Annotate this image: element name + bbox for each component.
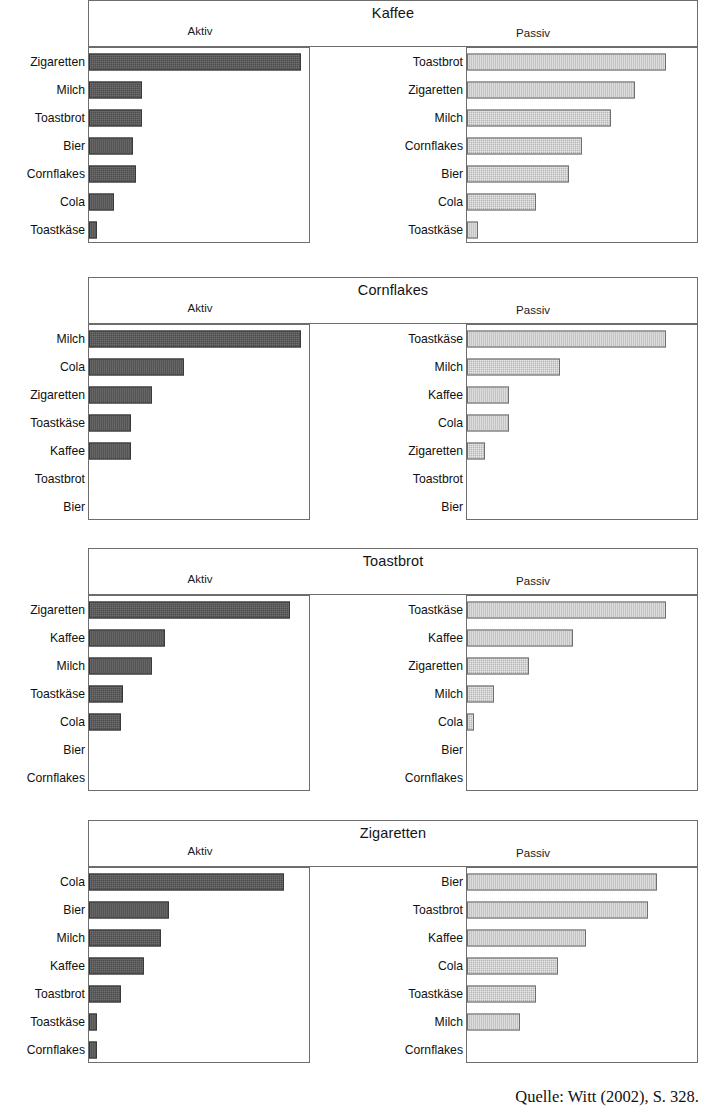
bar-rows xyxy=(89,48,309,242)
category-label: Cola xyxy=(438,715,463,729)
bar xyxy=(89,82,142,99)
bar xyxy=(89,331,301,348)
bar-row xyxy=(467,493,697,521)
bar-row xyxy=(467,680,697,708)
category-label: Zigaretten xyxy=(408,83,463,97)
bar-rows xyxy=(467,868,697,1062)
bar xyxy=(467,658,529,675)
bar-row xyxy=(89,924,309,952)
bar xyxy=(89,222,97,239)
bar-row xyxy=(467,868,697,896)
bar xyxy=(89,54,301,71)
bar-row xyxy=(89,409,309,437)
bar xyxy=(467,82,635,99)
bar-row xyxy=(467,924,697,952)
bar-row xyxy=(467,325,697,353)
category-label: Kaffee xyxy=(428,631,463,645)
bar xyxy=(467,387,509,404)
category-label: Toastkäse xyxy=(30,223,85,237)
bar xyxy=(89,602,290,619)
column-heading-aktiv: Aktiv xyxy=(89,302,311,315)
category-label: Kaffee xyxy=(50,631,85,645)
bar-row xyxy=(467,736,697,764)
category-label: Cola xyxy=(438,959,463,973)
category-label: Milch xyxy=(435,687,463,701)
bar-row xyxy=(467,188,697,216)
bar-rows xyxy=(467,325,697,519)
bar-row xyxy=(467,132,697,160)
column-heading-passiv: Passiv xyxy=(422,304,644,317)
bar-row xyxy=(89,216,309,244)
bar xyxy=(467,54,666,71)
category-label: Milch xyxy=(57,931,85,945)
bar-row xyxy=(89,160,309,188)
bar xyxy=(89,138,133,155)
category-label: Kaffee xyxy=(428,388,463,402)
bar xyxy=(89,930,161,947)
bar xyxy=(89,986,121,1003)
plot-area-aktiv: ColaBierMilchKaffeeToastbrotToastkäseCor… xyxy=(88,867,310,1063)
plot-area-passiv: ToastbrotZigarettenMilchCornflakesBierCo… xyxy=(466,47,698,243)
bar xyxy=(467,359,560,376)
category-label: Cola xyxy=(60,195,85,209)
bar xyxy=(467,443,485,460)
bar-row xyxy=(467,980,697,1008)
plot-area-passiv: ToastkäseMilchKaffeeColaZigarettenToastb… xyxy=(466,324,698,520)
bar-row xyxy=(467,1008,697,1036)
category-label: Cola xyxy=(60,875,85,889)
bar-row xyxy=(89,736,309,764)
bar-row xyxy=(89,353,309,381)
chart-panel: ToastbrotAktivPassivZigarettenKaffeeMilc… xyxy=(0,548,703,797)
category-label: Toastbrot xyxy=(413,472,463,486)
chart-title: Zigaretten xyxy=(89,825,697,841)
category-label: Zigaretten xyxy=(408,444,463,458)
bar-rows xyxy=(467,596,697,790)
bar-row xyxy=(89,1008,309,1036)
bar xyxy=(89,359,184,376)
category-label: Kaffee xyxy=(50,959,85,973)
bar-row xyxy=(89,896,309,924)
bar-row xyxy=(89,48,309,76)
category-label: Toastbrot xyxy=(35,472,85,486)
category-label: Cola xyxy=(60,360,85,374)
category-label: Toastbrot xyxy=(413,55,463,69)
bar-row xyxy=(89,76,309,104)
chart-header-box: ZigarettenAktivPassiv xyxy=(88,820,698,867)
bar xyxy=(467,194,536,211)
plot-area-passiv: BierToastbrotKaffeeColaToastkäseMilchCor… xyxy=(466,867,698,1063)
bar-rows xyxy=(467,48,697,242)
bar-row xyxy=(467,76,697,104)
bar xyxy=(467,110,611,127)
bar-row xyxy=(89,596,309,624)
bar-row xyxy=(467,160,697,188)
chart-panel: CornflakesAktivPassivMilchColaZigaretten… xyxy=(0,277,703,526)
bar xyxy=(89,1014,97,1031)
bar xyxy=(467,138,582,155)
bar-row xyxy=(467,596,697,624)
bar xyxy=(89,415,131,432)
bar-row xyxy=(89,381,309,409)
bar xyxy=(467,1014,520,1031)
category-label: Bier xyxy=(441,500,463,514)
bar-row xyxy=(467,896,697,924)
plot-area-passiv: ToastkäseKaffeeZigarettenMilchColaBierCo… xyxy=(466,595,698,791)
bar-row xyxy=(89,680,309,708)
bar xyxy=(467,714,474,731)
bar xyxy=(89,658,152,675)
bar-row xyxy=(467,48,697,76)
bar xyxy=(89,714,121,731)
bar xyxy=(467,958,558,975)
category-label: Cornflakes xyxy=(27,1043,85,1057)
bar-row xyxy=(89,132,309,160)
category-label: Zigaretten xyxy=(30,55,85,69)
bar-row xyxy=(467,652,697,680)
bar xyxy=(89,194,114,211)
bar-row xyxy=(89,868,309,896)
category-label: Milch xyxy=(57,332,85,346)
category-label: Toastkäse xyxy=(408,332,463,346)
category-label: Toastbrot xyxy=(35,987,85,1001)
bar xyxy=(89,686,123,703)
category-label: Cornflakes xyxy=(405,139,463,153)
category-label: Milch xyxy=(435,1015,463,1029)
bar-row xyxy=(89,708,309,736)
